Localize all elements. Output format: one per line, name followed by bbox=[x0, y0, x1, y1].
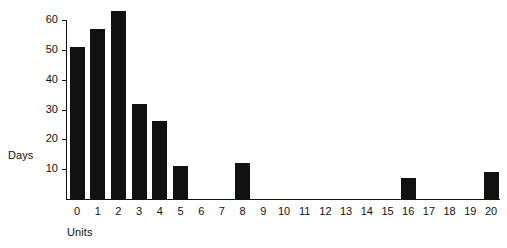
x-tick-label: 10 bbox=[274, 205, 294, 217]
x-axis-title: Units bbox=[67, 226, 93, 238]
x-tick-label: 1 bbox=[88, 205, 108, 217]
x-tick-label: 15 bbox=[378, 205, 398, 217]
bar bbox=[401, 178, 416, 199]
x-tick-label: 18 bbox=[440, 205, 460, 217]
x-tick-label: 13 bbox=[336, 205, 356, 217]
x-axis-line bbox=[66, 199, 500, 200]
bar bbox=[484, 172, 499, 199]
y-tick-label: 40 bbox=[36, 73, 58, 85]
x-tick-label: 7 bbox=[212, 205, 232, 217]
bar bbox=[152, 121, 167, 199]
x-tick-label: 16 bbox=[398, 205, 418, 217]
y-axis-title: Days bbox=[8, 149, 33, 161]
bar-chart: Days Units 102030405060 0123456789101112… bbox=[0, 0, 507, 248]
x-tick-label: 6 bbox=[191, 205, 211, 217]
y-tick-label: 10 bbox=[36, 162, 58, 174]
bar bbox=[235, 163, 250, 199]
x-tick-label: 9 bbox=[253, 205, 273, 217]
x-tick-label: 5 bbox=[171, 205, 191, 217]
bar bbox=[111, 11, 126, 199]
y-tick-label: 30 bbox=[36, 103, 58, 115]
bar bbox=[70, 47, 85, 199]
x-tick-label: 20 bbox=[481, 205, 501, 217]
y-tick-label: 60 bbox=[36, 13, 58, 25]
x-tick-label: 19 bbox=[460, 205, 480, 217]
y-tick-label: 50 bbox=[36, 43, 58, 55]
x-tick-label: 2 bbox=[108, 205, 128, 217]
plot-area bbox=[66, 0, 500, 199]
x-tick-label: 14 bbox=[357, 205, 377, 217]
bar bbox=[90, 29, 105, 199]
x-tick-label: 4 bbox=[150, 205, 170, 217]
bar bbox=[132, 104, 147, 199]
x-tick-label: 12 bbox=[315, 205, 335, 217]
x-tick-label: 3 bbox=[129, 205, 149, 217]
x-tick-label: 8 bbox=[233, 205, 253, 217]
bar bbox=[173, 166, 188, 199]
x-tick-label: 17 bbox=[419, 205, 439, 217]
x-tick-label: 11 bbox=[295, 205, 315, 217]
x-tick-label: 0 bbox=[67, 205, 87, 217]
y-tick-label: 20 bbox=[36, 132, 58, 144]
